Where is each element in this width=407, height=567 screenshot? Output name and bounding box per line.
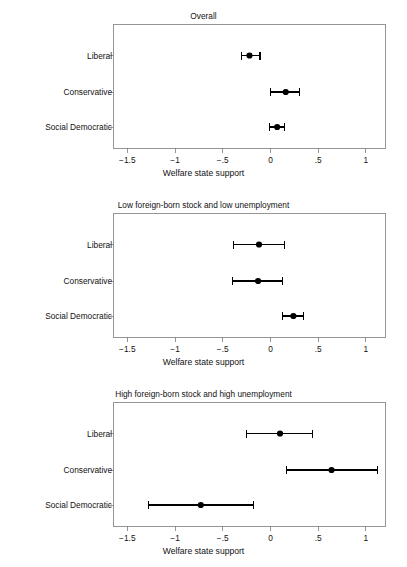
x-axis-tick-label: −1	[170, 344, 179, 354]
x-axis-tick-label: .5	[315, 533, 322, 543]
point-estimate-marker	[198, 502, 204, 508]
x-axis-tick-label: 1	[364, 344, 369, 354]
data-point-group	[287, 466, 378, 474]
point-estimate-marker	[283, 89, 289, 95]
x-axis-tick-label: 0	[268, 155, 273, 165]
plot-frame	[113, 24, 385, 148]
data-point-group	[233, 241, 285, 249]
point-estimate-marker	[246, 52, 252, 58]
x-axis-tick-label: −1.5	[119, 155, 135, 165]
x-axis-title: Welfare state support	[0, 546, 407, 556]
point-estimate-marker	[328, 467, 334, 473]
point-estimate-marker	[277, 430, 283, 436]
x-axis-tick-label: 1	[364, 155, 369, 165]
x-axis-tick-label: −.5	[217, 155, 229, 165]
category-label: Conservative	[64, 276, 112, 286]
category-label: Liberal	[87, 240, 112, 250]
plot-area	[0, 0, 407, 189]
x-axis-tick-label: .5	[315, 344, 322, 354]
category-label: Conservative	[64, 87, 112, 97]
data-point-group	[270, 123, 285, 131]
point-estimate-marker	[290, 313, 296, 319]
plot-area	[0, 189, 407, 378]
chart-panel-low-foreign-born-low-unemployment: Low foreign-born stock and low unemploym…	[0, 189, 407, 378]
category-label: Conservative	[64, 465, 112, 475]
x-axis-tick-label: 0	[268, 344, 273, 354]
x-axis-title: Welfare state support	[0, 357, 407, 367]
x-axis-tick-label: −.5	[217, 344, 229, 354]
data-point-group	[148, 501, 253, 509]
data-point-group	[270, 88, 299, 96]
data-point-group	[247, 430, 313, 438]
x-axis-tick-label: −.5	[217, 533, 229, 543]
x-axis-tick-label: 0	[268, 533, 273, 543]
plot-area	[0, 378, 407, 567]
data-point-group	[283, 312, 304, 320]
point-estimate-marker	[255, 278, 261, 284]
category-label: Liberal	[87, 51, 112, 61]
data-point-group	[232, 277, 283, 285]
chart-panel-overall: Overall LiberalConservativeSocial Democr…	[0, 0, 407, 189]
x-axis-title: Welfare state support	[0, 168, 407, 178]
x-axis-tick-label: −1	[170, 155, 179, 165]
category-label: Liberal	[87, 429, 112, 439]
category-label: Social Democratic	[45, 500, 112, 510]
x-axis-tick-label: −1.5	[119, 344, 135, 354]
category-label: Social Democratic	[45, 311, 112, 321]
category-label: Social Democratic	[45, 122, 112, 132]
x-axis-tick-label: −1	[170, 533, 179, 543]
x-axis-tick-label: −1.5	[119, 533, 135, 543]
chart-panel-high-foreign-born-high-unemployment: High foreign-born stock and high unemplo…	[0, 378, 407, 567]
x-axis-tick-label: .5	[315, 155, 322, 165]
point-estimate-marker	[274, 124, 280, 130]
data-point-group	[242, 52, 260, 60]
figure-welfare-state-support: Overall LiberalConservativeSocial Democr…	[0, 0, 407, 567]
x-axis-tick-label: 1	[364, 533, 369, 543]
plot-frame	[113, 213, 385, 337]
point-estimate-marker	[256, 241, 262, 247]
plot-frame	[113, 402, 385, 526]
